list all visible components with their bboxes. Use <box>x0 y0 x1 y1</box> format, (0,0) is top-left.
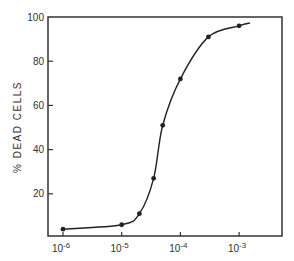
data-points <box>61 23 242 231</box>
data-point <box>237 23 242 28</box>
x-tick-label: 10-5 <box>111 241 130 254</box>
y-tick-label: 20 <box>33 188 45 199</box>
x-tick-label: 10-4 <box>169 241 188 254</box>
data-point <box>151 176 156 181</box>
plot-frame <box>48 17 282 236</box>
y-tick-label: 60 <box>33 100 45 111</box>
y-tick-label: 100 <box>27 12 44 23</box>
dose-response-chart: 20406080100 10-610-510-410-3 % DEAD CELL… <box>0 0 294 261</box>
data-point <box>119 222 124 227</box>
data-point <box>178 76 183 81</box>
data-point <box>61 227 66 232</box>
data-point <box>160 123 165 128</box>
y-axis-ticks: 20406080100 <box>27 12 53 200</box>
y-axis-title: % DEAD CELLS <box>12 81 23 173</box>
data-point <box>206 34 211 39</box>
data-point <box>137 211 142 216</box>
data-curve <box>63 23 250 229</box>
x-tick-label: 10-3 <box>228 241 247 254</box>
x-tick-label: 10-6 <box>52 241 71 254</box>
y-tick-label: 80 <box>33 56 45 67</box>
y-tick-label: 40 <box>33 144 45 155</box>
